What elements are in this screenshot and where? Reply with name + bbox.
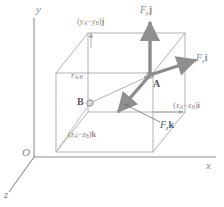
y-component-label: (yA−yB)j xyxy=(77,16,104,26)
axis-label-z: z xyxy=(4,188,8,200)
force-z-arrow xyxy=(118,75,150,112)
z-component-label: (zA−zB)k xyxy=(68,129,96,139)
axis-z xyxy=(9,157,34,192)
z-comp-unit: k xyxy=(92,129,97,139)
force-z-callout-leader xyxy=(124,104,160,122)
force-z-label: Fzk xyxy=(160,119,174,131)
x-comp-unit: i xyxy=(197,100,199,110)
box-back-face xyxy=(88,33,185,112)
point-b-label: B xyxy=(77,96,84,107)
force-y-label: Fyj xyxy=(140,4,152,16)
x-component-label: (xA−xB)i xyxy=(173,100,200,110)
force-y-unit: j xyxy=(149,4,152,15)
axis-label-x: x xyxy=(206,159,211,171)
position-vector-label: rA/B xyxy=(71,70,83,80)
position-vector-line xyxy=(56,76,149,152)
axis-origin-label: O xyxy=(22,146,30,158)
y-comp-unit: j xyxy=(101,16,104,26)
force-x-unit: i xyxy=(205,52,208,63)
position-vector-sub: A/B xyxy=(75,74,83,80)
axis-label-y: y xyxy=(36,3,41,15)
box-front-face xyxy=(56,73,153,152)
point-a-label: A xyxy=(153,78,160,89)
figure-canvas: y x z O A B Fyj Fxi Fzk rA/B (yA−yB)j (x… xyxy=(0,0,224,207)
force-z-unit: k xyxy=(169,119,175,130)
point-b-marker xyxy=(87,100,93,106)
force-x-label: Fxi xyxy=(196,52,208,64)
